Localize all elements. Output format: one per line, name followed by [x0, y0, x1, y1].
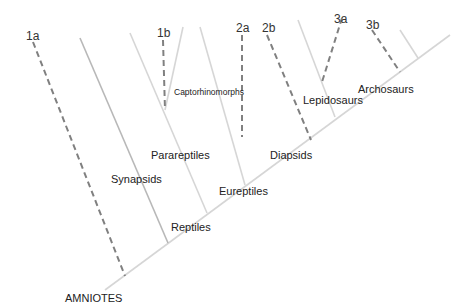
marker-1a: 1a [26, 30, 39, 42]
eureptiles-branch [200, 27, 245, 185]
label-synapsids: Synapsids [111, 174, 162, 185]
branch-3b-dashed [372, 30, 400, 72]
cladogram [0, 0, 473, 304]
label-eureptiles: Eureptiles [219, 186, 268, 197]
trunk-line [105, 35, 450, 290]
marker-1b: 1b [157, 27, 170, 39]
label-reptiles: Reptiles [171, 222, 211, 233]
marker-2a: 2a [236, 22, 249, 34]
branch-1a-dashed [33, 42, 125, 276]
marker-2b: 2b [262, 22, 275, 34]
terminal-branch [400, 30, 418, 58]
marker-3a: 3a [334, 13, 347, 25]
label-diapsids: Diapsids [270, 150, 312, 161]
label-lepidosaurs: Lepidosaurs [303, 95, 363, 106]
marker-3b: 3b [366, 19, 379, 31]
branch-2b-dashed [267, 35, 311, 140]
label-captorhinomorphs: Captorhinomorphs [174, 88, 244, 97]
label-amniotes: AMNIOTES [65, 293, 122, 304]
branch-1b-dashed [163, 40, 165, 110]
synapsids-branch [80, 38, 168, 243]
label-parareptiles: Parareptiles [151, 150, 210, 161]
branch-3a-dashed [322, 18, 342, 82]
label-archosaurs: Archosaurs [358, 84, 414, 95]
parareptiles-branch [130, 33, 207, 213]
